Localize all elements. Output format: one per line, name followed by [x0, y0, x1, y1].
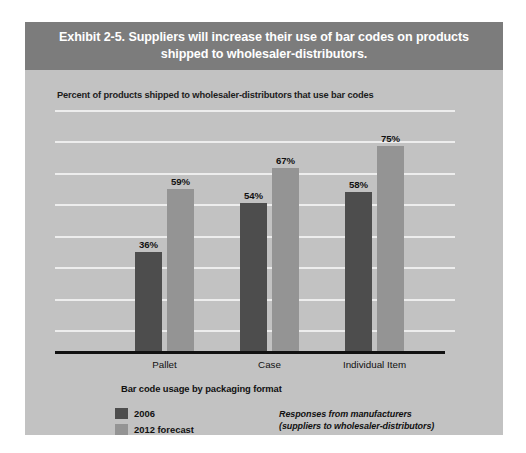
legend-item-2006: 2006: [115, 406, 194, 420]
bar: [345, 192, 372, 351]
chart-note: Responses from manufacturers (suppliers …: [279, 408, 434, 432]
category-label: Case: [210, 359, 330, 370]
bar-value-label: 75%: [371, 133, 410, 144]
legend-item-2012-forecast: 2012 forecast: [115, 422, 194, 436]
exhibit-panel: Exhibit 2-5. Suppliers will increase the…: [25, 22, 503, 435]
category-label: Individual Item: [315, 359, 435, 370]
bar: [377, 146, 404, 351]
bar: [240, 203, 267, 351]
chart-subtitle: Percent of products shipped to wholesale…: [57, 90, 374, 100]
bar: [272, 168, 299, 351]
bar: [135, 252, 162, 351]
legend-swatch-2012-forecast: [115, 424, 128, 435]
legend-swatch-2006: [115, 408, 128, 419]
chart-legend: 2006 2012 forecast: [115, 406, 194, 438]
bar-value-label: 36%: [129, 239, 168, 250]
chart-note-line-1: Responses from manufacturers: [279, 408, 434, 420]
exhibit-title: Exhibit 2-5. Suppliers will increase the…: [39, 29, 489, 62]
category-label: Pallet: [105, 359, 225, 370]
bar-value-label: 58%: [339, 179, 378, 190]
legend-label-2006: 2006: [134, 408, 155, 419]
bar-value-label: 54%: [234, 190, 273, 201]
x-axis-title: Bar code usage by packaging format: [121, 383, 282, 394]
bar-value-label: 59%: [161, 176, 200, 187]
chart-bars-layer: 36%59%54%67%58%75%: [55, 110, 445, 351]
bar-value-label: 67%: [266, 155, 305, 166]
legend-label-2012-forecast: 2012 forecast: [134, 424, 194, 435]
bar: [167, 189, 194, 351]
x-axis-line: [55, 351, 445, 354]
exhibit-title-banner: Exhibit 2-5. Suppliers will increase the…: [25, 22, 503, 70]
chart-note-line-2: (suppliers to wholesaler-distributors): [279, 420, 434, 432]
